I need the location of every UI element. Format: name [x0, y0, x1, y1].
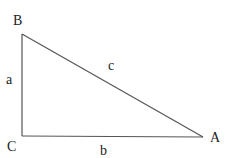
- vertex-c-label: C: [7, 139, 16, 154]
- side-b-line: [22, 136, 203, 137]
- side-a-label: a: [6, 72, 13, 87]
- vertex-b-label: B: [13, 13, 22, 28]
- side-b-label: b: [100, 143, 107, 158]
- vertex-a-label: A: [210, 130, 221, 145]
- side-c-label: c: [108, 58, 114, 73]
- triangle-diagram: B C A a b c: [0, 0, 228, 158]
- side-c-line: [22, 34, 203, 137]
